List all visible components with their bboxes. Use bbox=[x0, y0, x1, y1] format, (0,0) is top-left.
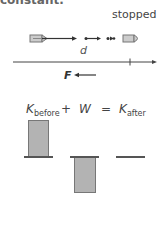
baseline-work bbox=[70, 156, 99, 158]
velocity-arrow-long bbox=[42, 36, 77, 40]
k-before-label: Kbefore bbox=[26, 102, 60, 118]
position-axis bbox=[13, 59, 157, 66]
baseline-k-before bbox=[24, 156, 53, 158]
plus-sign: + bbox=[61, 102, 71, 116]
bar-work bbox=[74, 156, 96, 193]
displacement-label: d bbox=[80, 44, 87, 57]
work-label: W bbox=[79, 102, 91, 116]
equals-sign: = bbox=[101, 102, 111, 116]
velocity-arrow-tiny bbox=[107, 37, 116, 41]
force-arrow bbox=[74, 73, 96, 77]
force-label: F bbox=[64, 69, 72, 82]
baseline-k-after bbox=[116, 156, 145, 158]
k-after-label: Kafter bbox=[119, 102, 146, 118]
bullet-stopped-icon bbox=[123, 35, 138, 42]
bar-k-before bbox=[28, 120, 49, 157]
velocity-arrow-short bbox=[85, 37, 102, 41]
